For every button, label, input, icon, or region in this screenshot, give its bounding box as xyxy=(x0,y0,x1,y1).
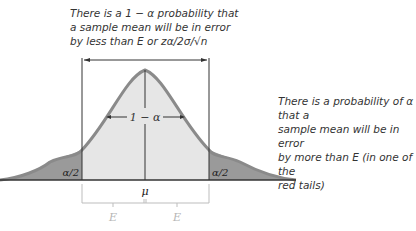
left-error-label: E xyxy=(108,211,117,224)
mean-label: μ xyxy=(141,185,148,198)
right-error-label: E xyxy=(172,211,181,224)
left-tail-label: α/2 xyxy=(63,167,79,178)
normal-distribution-diagram: 1 − α α/2 α/2 μ E E xyxy=(0,0,416,231)
arrowhead-left-icon xyxy=(84,58,90,62)
right-tail-label: α/2 xyxy=(212,167,228,178)
arrowhead-right-icon xyxy=(201,58,207,62)
center-label: 1 − α xyxy=(130,111,161,124)
